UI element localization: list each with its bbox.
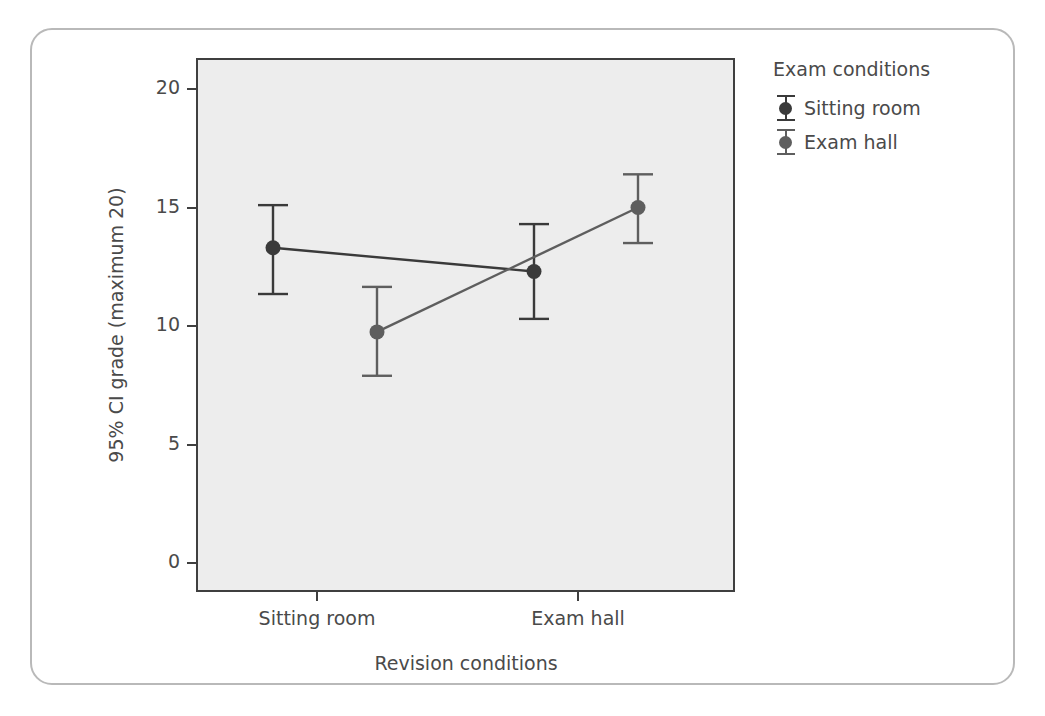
series-line (377, 208, 638, 332)
legend-title: Exam conditions (773, 58, 973, 80)
error-bar-cap-bottom (777, 153, 795, 155)
legend: Exam conditions Sitting room Exam hall (773, 58, 973, 159)
series-2 (362, 174, 653, 375)
legend-item-sitting-room[interactable]: Sitting room (773, 91, 973, 125)
error-bar-marker-icon (773, 93, 799, 123)
error-bar-cap-bottom (777, 119, 795, 121)
data-point-marker (631, 200, 646, 215)
data-point-marker (527, 264, 542, 279)
series-line (273, 248, 534, 272)
data-point-marker (266, 240, 281, 255)
legend-item-label: Exam hall (804, 131, 898, 153)
data-point-marker (370, 324, 385, 339)
legend-item-label: Sitting room (804, 97, 921, 119)
error-bar-marker-icon (773, 127, 799, 157)
legend-item-exam-hall[interactable]: Exam hall (773, 125, 973, 159)
series-1 (258, 205, 549, 319)
marker-dot-icon (779, 136, 792, 149)
marker-dot-icon (779, 102, 792, 115)
